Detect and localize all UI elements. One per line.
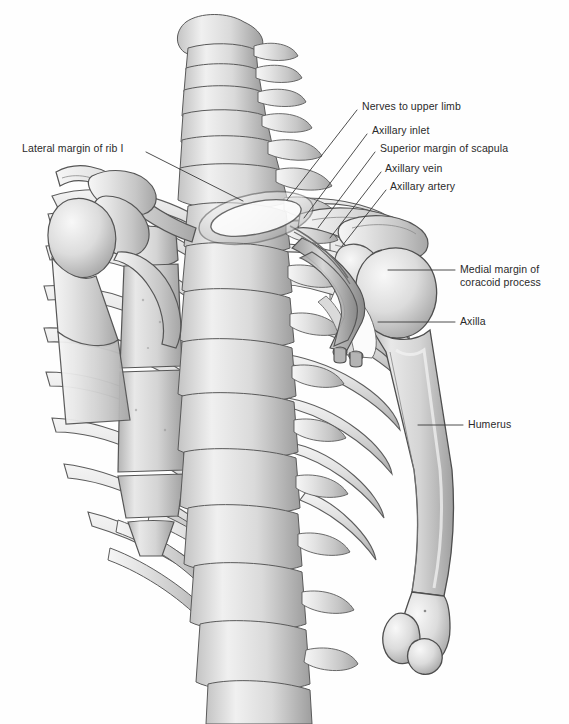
label-humerus: Humerus xyxy=(468,418,511,431)
label-nerves-to-upper-limb: Nerves to upper limb xyxy=(362,100,461,113)
label-axillary-artery: Axillary artery xyxy=(390,180,455,193)
label-lateral-margin-rib-1: Lateral margin of rib I xyxy=(22,142,124,155)
label-axillary-vein: Axillary vein xyxy=(385,162,442,175)
anatomy-figure: Lateral margin of rib I Nerves to upper … xyxy=(0,0,569,724)
label-axillary-inlet: Axillary inlet xyxy=(372,124,429,137)
label-superior-margin-of-scapula: Superior margin of scapula xyxy=(380,142,508,155)
anatomy-illustration xyxy=(0,0,569,724)
label-axilla: Axilla xyxy=(460,315,486,328)
label-medial-margin-of-coracoid-process: Medial margin of coracoid process xyxy=(460,263,541,288)
